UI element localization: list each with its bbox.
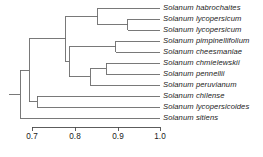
axis-group bbox=[32, 127, 160, 131]
tip-label: Solanum lycopersicoides bbox=[163, 103, 249, 111]
phylogenetic-tree-figure: Solanum habrochaitesSolanum lycopersicum… bbox=[0, 0, 263, 157]
tip-label: Solanum cheesmaniae bbox=[163, 48, 242, 56]
tip-label: Solanum lycopersicum bbox=[163, 26, 241, 34]
tip-label: Solanum habrochaites bbox=[163, 4, 241, 12]
axis-tick-label: 0.8 bbox=[61, 133, 89, 141]
axis-tick-label: 0.7 bbox=[18, 133, 46, 141]
tip-label: Solanum chilense bbox=[163, 92, 225, 100]
tip-label: Solanum lycopersicum bbox=[163, 15, 241, 23]
tip-label: Solanum pimpinellifolium bbox=[163, 37, 249, 45]
branch-group bbox=[9, 8, 160, 118]
tip-label: Solanum pennellii bbox=[163, 70, 225, 78]
axis-tick-label: 1.0 bbox=[146, 133, 174, 141]
tip-label: Solanum sitiens bbox=[163, 114, 218, 122]
axis-tick-label: 0.9 bbox=[104, 133, 132, 141]
tip-label: Solanum chmielewskii bbox=[163, 59, 240, 67]
tip-label: Solanum peruvianum bbox=[163, 81, 237, 89]
